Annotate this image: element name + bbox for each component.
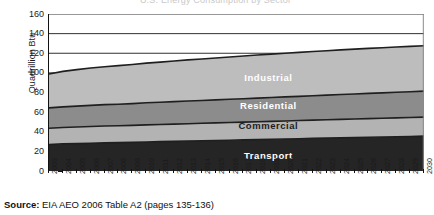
figure-title-text: U.S. Energy Consumption by Sector: [0, 0, 431, 5]
x-tick-label: 2029: [412, 158, 419, 174]
y-tick-label: 140: [29, 29, 44, 38]
x-tick-mark: [215, 169, 216, 173]
x-tick-label: 2014: [204, 158, 211, 174]
x-tick-label: 2005: [79, 158, 86, 174]
x-tick-label: 2012: [176, 158, 183, 174]
x-tick-label: 2008: [120, 158, 127, 174]
y-tick-label: 80: [34, 88, 44, 97]
x-tick-mark: [298, 169, 299, 173]
band-label-industrial: Industrial: [244, 72, 292, 83]
x-tick-mark: [201, 169, 202, 173]
x-tick-mark: [159, 169, 160, 173]
stacked-area-series: [49, 14, 424, 171]
x-tick-label: 2015: [218, 158, 225, 174]
x-tick-mark: [173, 169, 174, 173]
x-tick-mark: [256, 169, 257, 173]
x-tick-mark: [76, 169, 77, 173]
x-tick-mark: [62, 169, 63, 173]
x-tick-mark: [340, 169, 341, 173]
source-text: EIA AEO 2006 Table A2 (pages 135-136): [42, 199, 214, 210]
x-tick-mark: [131, 169, 132, 173]
x-tick-mark: [354, 169, 355, 173]
x-tick-label: 2003: [51, 158, 58, 174]
x-tick-label: 2028: [398, 158, 405, 174]
x-tick-label: 2013: [190, 158, 197, 174]
x-tick-label: 2010: [148, 158, 155, 174]
x-tick-mark: [187, 169, 188, 173]
x-tick-mark: [117, 169, 118, 173]
x-tick-mark: [409, 169, 410, 173]
x-tick-label: 2027: [384, 158, 391, 174]
x-tick-label: 2024: [343, 158, 350, 174]
x-tick-label: 2017: [245, 158, 252, 174]
x-tick-label: 2020: [287, 158, 294, 174]
y-tick-label: 60: [34, 108, 44, 117]
x-tick-mark: [367, 169, 368, 173]
x-tick-mark: [395, 169, 396, 173]
band-label-residential: Residential: [240, 100, 297, 111]
x-tick-label: 2011: [162, 159, 169, 174]
x-tick-label: 2009: [134, 158, 141, 174]
x-tick-mark: [423, 169, 424, 173]
x-tick-mark: [284, 169, 285, 173]
figure-title-cutoff: U.S. Energy Consumption by Sector: [0, 0, 431, 9]
source-prefix: Source:: [4, 199, 39, 210]
x-axis-tick-labels: 2003200420052006200720082009201020112012…: [0, 173, 431, 199]
x-tick-mark: [242, 169, 243, 173]
x-tick-label: 2007: [107, 158, 114, 174]
x-tick-mark: [312, 169, 313, 173]
x-tick-label: 2018: [259, 158, 266, 174]
plot-area: IndustrialResidentialCommercialTransport: [48, 14, 423, 171]
x-tick-label: 2030: [426, 158, 433, 174]
x-tick-label: 2025: [357, 158, 364, 174]
y-tick-label: 40: [34, 127, 44, 136]
x-tick-mark: [90, 169, 91, 173]
x-tick-mark: [270, 169, 271, 173]
x-tick-label: 2023: [329, 158, 336, 174]
y-tick-label: 20: [34, 147, 44, 156]
x-tick-mark: [145, 169, 146, 173]
x-tick-mark: [229, 169, 230, 173]
x-tick-mark: [381, 169, 382, 173]
x-tick-label: 2022: [315, 158, 322, 174]
x-tick-label: 2004: [65, 158, 72, 174]
x-tick-label: 2026: [370, 158, 377, 174]
x-tick-mark: [104, 169, 105, 173]
x-tick-label: 2021: [301, 158, 308, 174]
source-note: Source: EIA AEO 2006 Table A2 (pages 135…: [4, 199, 214, 210]
x-tick-label: 2016: [232, 158, 239, 174]
x-tick-mark: [48, 169, 49, 173]
x-tick-mark: [326, 169, 327, 173]
band-label-commercial: Commercial: [238, 120, 298, 131]
y-tick-label: 120: [29, 49, 44, 58]
y-tick-label: 100: [29, 68, 44, 77]
x-tick-label: 2006: [93, 158, 100, 174]
x-tick-label: 2019: [273, 158, 280, 174]
y-tick-label: 160: [29, 10, 44, 19]
